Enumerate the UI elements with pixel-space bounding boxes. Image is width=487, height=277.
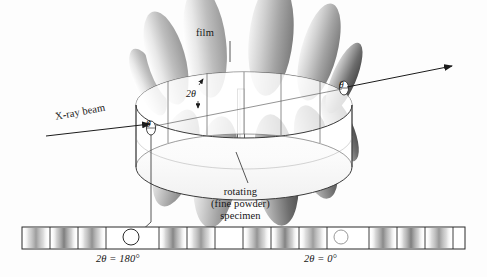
theta-label-entry: θ [146,119,151,130]
specimen-label: rotating (fine powder) specimen [211,186,270,221]
film-label: film [196,27,214,39]
specimen-label-line3: specimen [211,210,270,222]
two-theta-180-label: 2θ = 180° [96,253,140,265]
unrolled-film-strip [22,227,465,249]
film-hole-180-degrees [123,229,139,245]
film-hole-0-degrees [334,230,348,244]
theta-label-exit: θ [339,80,344,91]
figure-canvas: film rotating (fine powder) specimen X-r… [0,0,487,277]
diffraction-diagram [0,0,487,277]
specimen-label-line2: (fine powder) [211,198,270,210]
two-theta-label: 2θ [186,88,196,99]
specimen-label-line1: rotating [211,186,270,198]
two-theta-0-label: 2θ = 0° [304,253,337,265]
